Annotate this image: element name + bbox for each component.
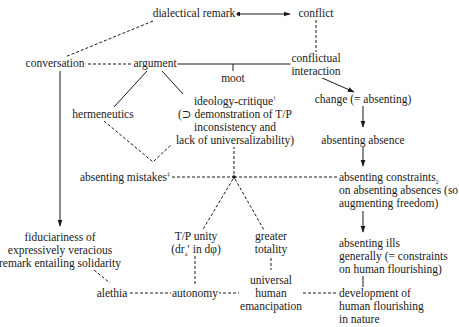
node-change: change (= absenting) [314,93,413,106]
node-label-line: in nature [339,313,424,326]
node-label-line: universal [240,274,302,287]
node-greater-totality: greater totality [254,230,289,256]
edge-diamond [104,121,172,162]
node-label-line: human [240,287,302,300]
node-hermeneutics: hermeneutics [71,108,134,121]
node-label-line: on absenting absences (so [339,184,458,197]
edge-fiduciariness-alethia [94,270,110,283]
node-label-line: conflictual [291,52,340,65]
node-alethia: alethia [96,287,129,300]
node-label-line: generally (= constraints [339,250,448,263]
node-conversation: conversation [25,57,86,70]
node-label-line: human flourishing [339,300,424,313]
edge-interaction-change [320,77,354,92]
node-label-text: ideology-critique [194,95,273,107]
node-label-line: T/P unity [171,230,221,243]
edge-argument-hermeneutics [114,71,147,107]
node-label-line: on human flourishing) [339,263,448,276]
node-label: argument [133,57,176,69]
node-label-line: remark entailing solidarity [0,257,121,270]
node-label-line: ideology-critique† [176,95,294,108]
node-absenting-mistakes: absenting mistakes‡ [79,171,171,184]
node-label-line: lack of universalizability) [176,134,294,147]
node-tp-unity: T/P unity (dra′ in dφ) [170,230,222,256]
node-moot: moot [220,72,246,85]
node-absenting-absence: absenting absence [320,134,405,147]
node-fiduciariness: fiduciariness of expressively veracious … [0,231,122,270]
node-label: absenting mistakes [80,171,167,183]
footnote-mark: † [273,95,276,101]
node-label-line: (⊃ demonstration of T/P [176,108,294,121]
node-label-line: fiduciariness of [0,231,121,244]
node-label: conversation [26,57,85,69]
node-label-line: development of [339,287,424,300]
edge-junction-tpunity [202,179,233,231]
node-argument: argument [132,57,177,70]
node-label-line: inconsistency and [176,121,294,134]
edge-argument-ideology [162,71,183,94]
node-label: moot [221,72,245,84]
node-absenting-ills: absenting ills generally (= constraints … [338,237,449,276]
node-label-line: greater [255,230,288,243]
node-label-text: (dr [171,243,184,255]
node-label: hermeneutics [72,108,133,120]
node-label-line: expressively veracious [0,244,121,257]
node-label-line: absenting ills [339,237,448,250]
node-label-line: (dra′ in dφ) [171,243,221,256]
node-label: alethia [97,287,128,299]
junction-dot [232,175,236,179]
node-universal-human-emancipation: universal human emancipation [239,274,303,313]
node-ideology-critique: ideology-critique† (⊃ demonstration of T… [175,95,295,147]
node-label: conflict [298,7,333,19]
node-development: development of human flourishing in natu… [338,287,425,326]
node-label-line: absenting constraints2 [339,171,458,184]
edge-junction-totality [235,179,264,230]
node-label-text: absenting constraints [339,171,436,183]
node-label: absenting absence [321,134,404,146]
node-label-text: ′ in dφ) [187,243,220,255]
footnote-mark: ‡ [167,171,170,177]
node-label: dialectical remark [153,7,236,19]
node-label-line: augmenting freedom) [339,197,458,210]
edge-remark-conversation [65,21,153,57]
node-absenting-constraints: absenting constraints2 on absenting abse… [338,171,459,210]
node-label-line: interaction [291,65,340,78]
node-autonomy: autonomy [171,287,219,300]
node-label: change (= absenting) [315,93,412,105]
node-label-line: totality [255,243,288,256]
node-conflictual-interaction: conflictual interaction [290,52,341,78]
node-dialectical-remark: dialectical remark [152,7,237,20]
node-conflict: conflict [297,7,334,20]
node-label: autonomy [172,287,218,299]
node-label-line: emancipation [240,300,302,313]
